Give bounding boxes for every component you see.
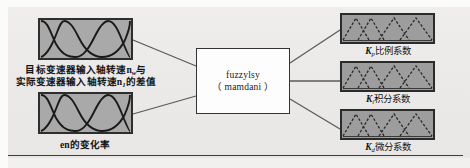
- triangular-curves-ki: [342, 63, 433, 90]
- connector-input-error-to-engine: [133, 40, 196, 66]
- connector-input-rate-to-engine: [133, 96, 196, 114]
- input-error-caption-line2: 实际变速器输入轴转速n1的差值: [6, 76, 166, 91]
- figure-canvas: 目标变速器输入轴转速nw与 实际变速器输入轴转速n1的差值 en的变化率 fuz…: [0, 0, 470, 168]
- triangular-curves-kp: [342, 15, 433, 42]
- input-error-rate-membership-plot: [38, 92, 133, 134]
- output-kp-caption: Kp比例系数: [332, 46, 444, 59]
- gaussian-curves-input-rate: [40, 94, 131, 132]
- output-kp-membership-plot: [340, 13, 435, 44]
- output-kd-membership-plot: [340, 109, 435, 140]
- triangular-curves-kd: [342, 111, 433, 138]
- engine-label-line1: fuzzylsy: [226, 70, 260, 81]
- input-error-membership-plot: [38, 18, 133, 60]
- fuzzy-inference-engine-block: fuzzylsy （ mamdani ）: [196, 48, 290, 114]
- engine-label-line2: （ mamdani ）: [212, 82, 274, 93]
- output-kd-caption: Kd微分系数: [332, 142, 444, 155]
- input-error-rate-caption: en的变化率: [25, 139, 145, 151]
- output-ki-caption: Ki积分系数: [332, 94, 444, 107]
- output-ki-membership-plot: [340, 61, 435, 92]
- figure-bottom-rule: [8, 155, 463, 156]
- gaussian-curves-input-error: [40, 20, 131, 58]
